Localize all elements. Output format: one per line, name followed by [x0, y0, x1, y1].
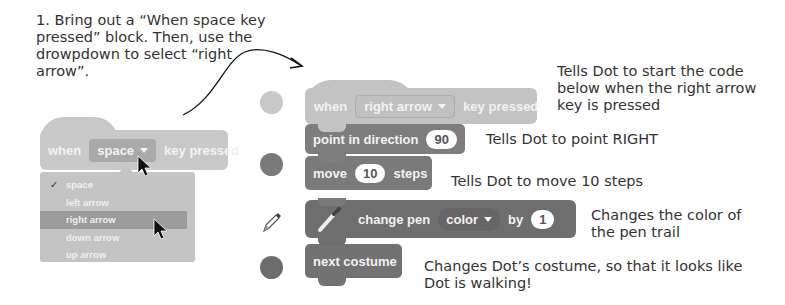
note-hat-block: Tells Dot to start the code below when t… [557, 63, 767, 114]
dropdown-caret-icon [140, 148, 148, 153]
checkmark-icon: ✓ [50, 176, 58, 194]
motion-category-icon [260, 153, 283, 176]
pen-block-row: change pen color by 1 [358, 205, 554, 233]
key-dropdown[interactable]: right arrow [355, 95, 455, 118]
events-category-icon [260, 91, 283, 114]
mouse-cursor-icon [136, 155, 156, 179]
move-block-row: move 10 steps [313, 161, 427, 185]
point-block-row: point in direction 90 [313, 127, 457, 151]
key-dropdown-value: right arrow [364, 99, 432, 114]
next-costume-label: next costume [313, 254, 397, 269]
when-label: when [314, 99, 347, 114]
dropdown-caret-icon [484, 217, 492, 222]
dropdown-caret-icon [438, 104, 446, 109]
direction-input[interactable]: 90 [426, 130, 456, 149]
move-label: move [313, 166, 347, 181]
note-costume-block: Changes Dot’s costume, so that it looks … [424, 258, 764, 292]
mouse-cursor-icon [152, 218, 172, 242]
menu-item-up-arrow[interactable]: up arrow [40, 246, 195, 262]
block-notch [318, 238, 346, 246]
change-pen-label: change pen [358, 212, 430, 227]
menu-item-space[interactable]: ✓ space [40, 176, 195, 194]
block-notch [318, 198, 346, 206]
pen-change-input[interactable]: 1 [531, 210, 554, 229]
pencil-category-icon [260, 210, 284, 234]
key-dropdown-value: space [97, 143, 134, 158]
pen-param-value: color [446, 212, 478, 227]
note-point-block: Tells Dot to point RIGHT [486, 131, 658, 148]
looks-category-icon [260, 256, 283, 279]
note-move-block: Tells Dot to move 10 steps [451, 173, 643, 190]
pen-extension-icon [316, 207, 344, 233]
key-dropdown-menu: ✓ space left arrow right arrow down arro… [40, 172, 195, 262]
steps-label: steps [393, 166, 427, 181]
pen-param-dropdown[interactable]: color [438, 208, 500, 231]
point-label: point in direction [313, 132, 418, 147]
next-costume-row: next costume [313, 250, 397, 272]
key-pressed-label: key pressed [164, 143, 239, 158]
hat-block-row: when right arrow key pressed [314, 91, 538, 121]
steps-input[interactable]: 10 [355, 164, 385, 183]
by-label: by [508, 212, 523, 227]
block-bottom-tab [318, 278, 346, 286]
menu-item-left-arrow[interactable]: left arrow [40, 194, 195, 212]
note-pen-block: Changes the color of the pen trail [591, 207, 761, 241]
key-pressed-label: key pressed [463, 99, 538, 114]
when-label: when [48, 143, 81, 158]
